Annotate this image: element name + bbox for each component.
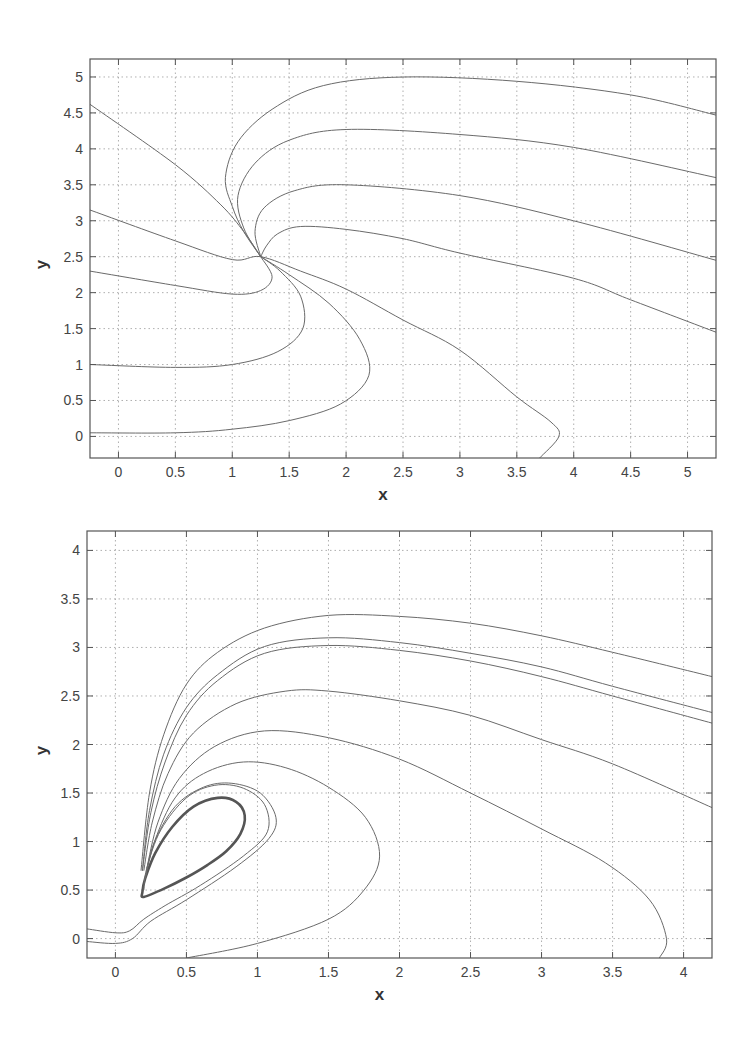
- y-tick-label: 1: [75, 357, 83, 373]
- y-tick-label: 1.5: [61, 785, 81, 801]
- y-tick-label: 1: [72, 834, 80, 850]
- x-tick-label: 4: [570, 464, 578, 480]
- traj-c-curve: [145, 762, 379, 958]
- bottom-phase-portrait: 00.511.522.533.5400.511.522.533.54xy: [32, 531, 712, 1004]
- x-tick-label: 1.5: [279, 464, 299, 480]
- x-tick-label: 3.5: [603, 964, 623, 980]
- limit-cycle-curve: [142, 798, 245, 897]
- x-tick-label: 5: [684, 464, 692, 480]
- traj-1-curve: [225, 77, 716, 257]
- x-tick-label: 0.5: [177, 964, 197, 980]
- x-tick-label: 2.5: [393, 464, 413, 480]
- traj-e-curve: [144, 690, 712, 871]
- y-axis-label: y: [32, 745, 51, 755]
- y-tick-label: 3.5: [61, 591, 81, 607]
- y-tick-label: 3: [72, 639, 80, 655]
- x-axis-label: x: [375, 985, 385, 1004]
- x-tick-label: 1.5: [319, 964, 339, 980]
- traj-9-curve: [90, 257, 370, 433]
- y-tick-label: 2: [72, 737, 80, 753]
- x-tick-label: 2: [396, 964, 404, 980]
- y-tick-label: 2: [75, 285, 83, 301]
- traj-7-curve: [90, 257, 272, 295]
- x-tick-label: 3: [456, 464, 464, 480]
- y-tick-label: 4: [75, 141, 83, 157]
- x-tick-label: 1: [228, 464, 236, 480]
- y-tick-label: 0: [75, 428, 83, 444]
- y-tick-label: 2.5: [64, 249, 84, 265]
- x-tick-label: 3.5: [507, 464, 527, 480]
- x-tick-label: 0.5: [166, 464, 186, 480]
- traj-f-curve: [142, 645, 712, 870]
- traj-2-curve: [237, 129, 716, 256]
- y-tick-label: 3.5: [64, 177, 84, 193]
- y-tick-label: 0.5: [61, 882, 81, 898]
- x-axis-label: x: [378, 485, 388, 504]
- y-tick-label: 0.5: [64, 392, 84, 408]
- traj-h-curve: [141, 615, 712, 871]
- y-axis-label: y: [32, 259, 51, 269]
- x-tick-label: 3: [538, 964, 546, 980]
- grid-lines: [90, 59, 716, 458]
- x-tick-label: 4.5: [621, 464, 641, 480]
- x-tick-label: 4: [680, 964, 688, 980]
- x-tick-label: 1: [254, 964, 262, 980]
- x-tick-label: 0: [112, 964, 120, 980]
- traj-3-curve: [255, 185, 716, 261]
- x-tick-label: 0: [115, 464, 123, 480]
- traj-8-curve: [90, 257, 305, 368]
- axis-ticks: 00.511.522.533.544.5500.511.522.533.544.…: [64, 59, 716, 480]
- y-tick-label: 4.5: [64, 105, 84, 121]
- x-tick-label: 2.5: [461, 964, 481, 980]
- axis-ticks: 00.511.522.533.5400.511.522.533.54: [61, 531, 712, 980]
- y-tick-label: 3: [75, 213, 83, 229]
- y-tick-label: 5: [75, 69, 83, 85]
- y-tick-label: 2.5: [61, 688, 81, 704]
- traj-4-curve: [261, 226, 716, 332]
- y-tick-label: 1.5: [64, 321, 84, 337]
- grid-lines: [87, 531, 712, 958]
- y-tick-label: 4: [72, 542, 80, 558]
- top-phase-portrait: 00.511.522.533.544.5500.511.522.533.544.…: [32, 59, 716, 504]
- traj-6-curve: [90, 210, 559, 458]
- y-tick-label: 0: [72, 931, 80, 947]
- x-tick-label: 2: [342, 464, 350, 480]
- figure-canvas: 00.511.522.533.544.5500.511.522.533.544.…: [0, 0, 754, 1054]
